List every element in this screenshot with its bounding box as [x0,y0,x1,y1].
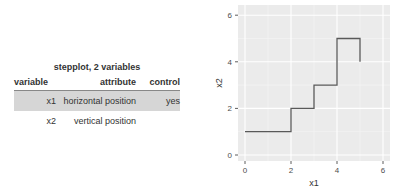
table-row: x2 vertical position [14,111,180,131]
y-tick-label: 0 [228,151,233,160]
x-tick-label: 4 [335,166,340,175]
table-caption: stepplot, 2 variables [14,60,180,74]
header-attribute: attribute [56,74,136,90]
x-tick-label: 2 [289,166,294,175]
header-control: control [136,74,180,90]
cell-attribute: horizontal position [56,91,136,111]
variable-table: stepplot, 2 variables variable attribute… [14,60,180,131]
cell-control [136,111,180,131]
step-chart: 02460246 x1 x2 [210,0,409,193]
table-row: x1 horizontal position yes [14,91,180,111]
header-variable: variable [14,74,56,90]
cell-variable: x1 [14,91,56,111]
y-axis-label: x2 [214,78,224,88]
y-tick-label: 2 [228,104,233,113]
x-tick-label: 0 [243,166,248,175]
plot-svg: 02460246 x1 x2 [210,0,409,193]
table-header: variable attribute control [14,74,180,91]
y-tick-label: 6 [228,11,233,20]
cell-control: yes [136,91,180,111]
cell-attribute: vertical position [56,111,136,131]
x-tick-label: 6 [381,166,386,175]
cell-variable: x2 [14,111,56,131]
y-tick-label: 4 [228,58,233,67]
x-axis-label: x1 [309,178,319,188]
